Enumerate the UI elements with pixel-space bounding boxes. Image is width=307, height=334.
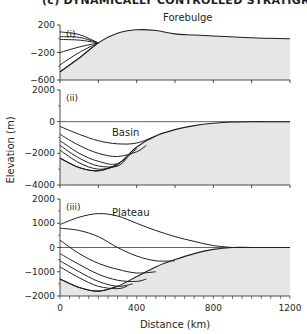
basement-fill (60, 122, 290, 185)
y-tick-label: −600 (30, 75, 55, 85)
stratal-surface (60, 126, 156, 144)
y-tick-label: 1000 (32, 218, 55, 228)
y-tick-label: 0 (49, 117, 55, 127)
region-label: Forebulge (163, 12, 213, 23)
stratigraphy-figure: 200−200−600(i)Forebulge 20000−2000−4000(… (0, 0, 307, 334)
panel-label: (iii) (66, 202, 81, 212)
stratal-surface (60, 228, 175, 261)
stratal-surface (60, 214, 233, 248)
x-axis-title: Distance (km) (140, 319, 210, 330)
basement-fill (60, 247, 290, 296)
y-tick-label: 2000 (32, 85, 55, 95)
stratal-surface (60, 240, 156, 273)
y-tick-label: 200 (38, 20, 55, 30)
x-tick-label: 400 (128, 303, 145, 313)
panel-label: (i) (66, 29, 76, 39)
y-tick-label: −4000 (25, 180, 56, 190)
y-tick-label: −2000 (25, 291, 56, 301)
x-tick-label: 1200 (279, 303, 302, 313)
x-tick-label: 0 (57, 303, 63, 313)
y-axis-title: Elevation (m) (5, 116, 16, 183)
y-tick-label: −2000 (25, 148, 56, 158)
y-tick-label: 0 (49, 243, 55, 253)
region-label: Plateau (112, 207, 149, 218)
y-tick-label: 2000 (32, 194, 55, 204)
stratal-surface (60, 254, 146, 282)
y-tick-label: −200 (30, 48, 55, 58)
basement-fill (60, 30, 290, 80)
panel-label: (ii) (66, 93, 78, 103)
x-tick-label: 800 (205, 303, 222, 313)
region-label: Basin (112, 127, 139, 138)
panel-plateau: 200010000−1000−200004008001200(iii)Plate… (25, 194, 302, 313)
panel-forebulge: 200−200−600(i)Forebulge (30, 12, 290, 85)
panel-basin: 20000−2000−4000(ii)Basin (25, 85, 290, 190)
y-tick-label: −1000 (25, 267, 56, 277)
